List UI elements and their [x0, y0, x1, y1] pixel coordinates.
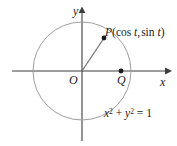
point-p-letter: P: [104, 26, 112, 38]
figure-canvas: P(cos t, sin t) Q O x y x2 + y2 = 1: [0, 0, 177, 146]
y-axis-arrowhead: [79, 7, 86, 14]
equation-value: 1: [146, 107, 152, 119]
point-p-label: P(cos t, sin t): [104, 26, 165, 39]
point-p-cos: cos: [116, 26, 132, 38]
point-q-label: Q: [117, 73, 126, 87]
point-p-label-group: P(cos t, sin t): [104, 26, 165, 39]
circle-equation: x2 + y2 = 1: [103, 107, 152, 121]
point-p-sin: sin: [141, 26, 155, 38]
radius-segment-op: [82, 38, 104, 71]
unit-circle-figure: P(cos t, sin t) Q O x y x2 + y2 = 1: [0, 0, 177, 146]
point-p-close-paren: ): [161, 26, 165, 39]
x-axis: [12, 68, 172, 75]
x-axis-label: x: [159, 75, 166, 89]
y-axis: [79, 7, 86, 142]
y-axis-label: y: [72, 4, 79, 18]
origin-label: O: [69, 73, 78, 87]
x-axis-arrowhead: [165, 68, 172, 75]
